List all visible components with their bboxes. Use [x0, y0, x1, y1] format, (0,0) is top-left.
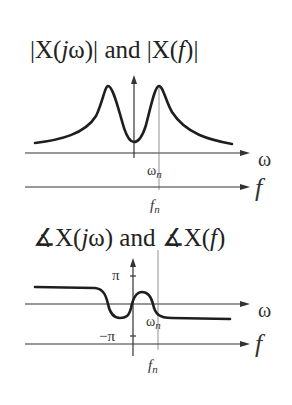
phase-f-axis-label: f	[255, 329, 266, 358]
y-axis-arrow-icon	[131, 75, 137, 84]
pi-label: π	[112, 267, 120, 283]
phase-omega-axis-label: ω	[258, 299, 271, 321]
spectrum-figure: |X(jω)| and |X(f)| ω ωn f fn ∡X(jω) and …	[0, 0, 292, 405]
f-axis-arrow-icon	[240, 184, 250, 190]
phase-y-axis-arrow-icon	[130, 258, 136, 267]
phase-plot: ∡X(jω) and ∡X(f) π −π ω ωn f fn	[25, 224, 271, 375]
phase-title: ∡X(jω) and ∡X(f)	[33, 224, 225, 252]
omega-axis-arrow-icon	[240, 150, 250, 156]
omega-axis-label: ω	[258, 148, 271, 170]
f-n-label: fn	[150, 197, 160, 215]
neg-pi-label: −π	[99, 328, 115, 344]
omega-n-label: ωn	[147, 163, 162, 180]
phase-f-n-label: fn	[148, 357, 158, 375]
f-axis-label: f	[255, 173, 266, 202]
magnitude-title: |X(jω)| and |X(f)|	[30, 36, 198, 64]
magnitude-plot: |X(jω)| and |X(f)| ω ωn f fn	[25, 36, 271, 215]
phase-f-axis-arrow-icon	[240, 341, 250, 347]
phase-omega-axis-arrow-icon	[240, 301, 250, 307]
